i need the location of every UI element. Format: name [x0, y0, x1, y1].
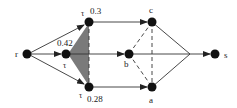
label-r: r [15, 49, 18, 59]
label-s: s [224, 50, 228, 60]
shaded-triangle [68, 23, 89, 86]
node-a [148, 83, 157, 92]
node-tau-bot [85, 83, 94, 92]
node-c [148, 18, 157, 27]
edge-c-junction [152, 22, 190, 54]
dashed-c-b [129, 22, 152, 54]
node-r [23, 50, 32, 59]
node-b [125, 50, 134, 59]
label-tau-bot: τ [79, 91, 83, 100]
node-tau-top [85, 18, 94, 27]
flow-diagram: r τ 0.3 0.42 τ τ 0.28 c b a s [0, 0, 237, 108]
label-c: c [149, 5, 153, 15]
value-tau-bot: 0.28 [87, 94, 103, 104]
label-tau-top: τ [81, 9, 85, 18]
value-tau-top: 0.3 [90, 6, 102, 16]
label-a: a [149, 95, 153, 105]
edge-a-junction [152, 54, 190, 87]
node-tau-mid [62, 50, 71, 59]
label-tau-mid: τ [63, 61, 67, 70]
node-s [211, 50, 220, 59]
dashed-b-a [129, 54, 152, 87]
value-tau-mid: 0.42 [57, 38, 73, 48]
label-b: b [124, 59, 129, 69]
